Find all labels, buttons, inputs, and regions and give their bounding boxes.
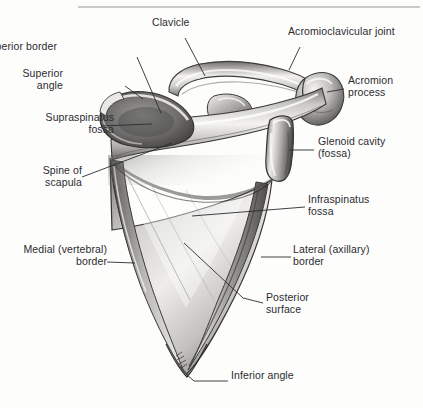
label-clavicle: Clavicle (152, 17, 190, 29)
label-glenoid-cavity: Glenoid cavity (fossa) (318, 136, 385, 159)
label-inferior-angle: Inferior angle (231, 370, 294, 382)
label-medial-vertebral-border: Medial (vertebral) border (24, 244, 108, 267)
scapula-illustration (100, 62, 344, 377)
label-superior-border: Superior border (0, 41, 57, 53)
label-spine-of-scapula: Spine of scapula (43, 165, 82, 188)
label-infraspinatus-fossa: Infraspinatus fossa (308, 194, 369, 217)
label-superior-angle: Superior angle (23, 68, 64, 91)
scapula-body (108, 155, 278, 377)
label-posterior-surface: Posterior surface (266, 292, 309, 315)
label-acromioclavicular-joint: Acromioclavicular joint (288, 26, 395, 38)
label-supraspinatus-fossa: Supraspinatus fossa (46, 112, 114, 135)
label-lateral-axillary-border: Lateral (axillary) border (293, 244, 370, 267)
label-acromion-process: Acromion process (348, 75, 393, 98)
leader-medial-vertebral-border (107, 262, 135, 263)
leader-inferior-angle (186, 374, 228, 381)
leader-acromioclavicular-joint (289, 47, 300, 70)
